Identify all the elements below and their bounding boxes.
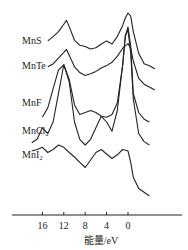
x-tick-label: 8 [83,220,88,231]
series-label-mnte: MnTe [22,60,46,71]
x-tick-label: 0 [126,220,131,231]
series-label-mnf: MnF [22,97,42,108]
x-tick-label: 16 [37,220,47,231]
series-labels: MnSMnTeMnFMnCl₂MnI₂ [22,35,49,160]
x-tick-label: 12 [59,220,69,231]
spectra-curves [32,13,155,196]
x-tick-label: 4 [104,220,109,231]
series-label-mni2: MnI₂ [22,149,43,160]
series-label-mns: MnS [22,35,41,46]
xps-spectra-chart: MnSMnTeMnFMnCl₂MnI₂ 1612840 能量/eV [0,0,188,250]
series-label-mncl2: MnCl₂ [22,125,49,136]
spectrum-curve-mnf [42,27,149,122]
x-axis-label: 能量/eV [84,234,119,246]
spectrum-curve-mncl2 [32,30,150,145]
spectrum-curve-mns [48,13,155,69]
spectrum-curve-mni2 [32,145,150,196]
